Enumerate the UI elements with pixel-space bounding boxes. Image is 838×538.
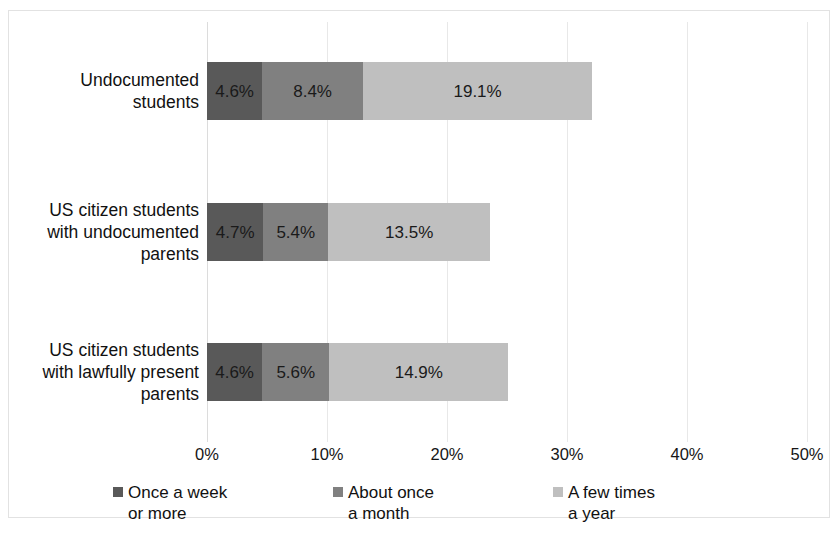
bar-segment[interactable]: 4.6% bbox=[207, 343, 262, 401]
bar-segment[interactable]: 4.7% bbox=[207, 203, 263, 261]
chart-legend: Once a weekor moreAbout oncea monthA few… bbox=[8, 482, 830, 528]
bar-value-label: 13.5% bbox=[385, 224, 433, 241]
bar-segment[interactable]: 5.4% bbox=[263, 203, 328, 261]
legend-swatch-icon bbox=[333, 487, 343, 497]
bar-segment[interactable]: 4.6% bbox=[207, 62, 262, 120]
x-tick-label-1: 10% bbox=[310, 445, 343, 464]
x-axis-tick-labels: 0%10%20%30%40%50% bbox=[207, 445, 807, 471]
legend-item[interactable]: About oncea month bbox=[333, 482, 505, 524]
x-tick-label-5: 50% bbox=[790, 445, 823, 464]
y-axis-category-labels: Undocumentedstudents US citizen students… bbox=[8, 22, 199, 442]
gridline-40 bbox=[687, 22, 688, 442]
plot-area: 4.6%8.4%19.1%4.7%5.4%13.5%4.6%5.6%14.9% bbox=[207, 22, 807, 442]
legend-swatch-icon bbox=[113, 487, 123, 497]
bar-segment[interactable]: 5.6% bbox=[262, 343, 329, 401]
bar-segment[interactable]: 13.5% bbox=[328, 203, 490, 261]
x-tick-label-3: 30% bbox=[550, 445, 583, 464]
bar-segment[interactable]: 19.1% bbox=[363, 62, 592, 120]
bar-value-label: 5.4% bbox=[276, 224, 315, 241]
bar-value-label: 5.6% bbox=[276, 364, 315, 381]
legend-item[interactable]: A few timesa year bbox=[553, 482, 725, 524]
bar-row[interactable]: 4.6%8.4%19.1% bbox=[207, 62, 592, 120]
bar-row[interactable]: 4.6%5.6%14.9% bbox=[207, 343, 508, 401]
x-tick-label-4: 40% bbox=[670, 445, 703, 464]
bar-value-label: 8.4% bbox=[293, 83, 332, 100]
bar-value-label: 4.6% bbox=[215, 364, 254, 381]
x-tick-label-0: 0% bbox=[195, 445, 219, 464]
y-axis-label-0: Undocumentedstudents bbox=[13, 69, 199, 113]
bar-segment[interactable]: 14.9% bbox=[329, 343, 508, 401]
legend-item[interactable]: Once a weekor more bbox=[113, 482, 285, 524]
x-tick-label-2: 20% bbox=[430, 445, 463, 464]
legend-swatch-icon bbox=[553, 487, 563, 497]
bar-value-label: 4.6% bbox=[215, 83, 254, 100]
bar-row[interactable]: 4.7%5.4%13.5% bbox=[207, 203, 490, 261]
y-axis-label-2: US citizen studentswith lawfully present… bbox=[13, 339, 199, 405]
legend-label: A few timesa year bbox=[568, 482, 655, 524]
bar-value-label: 4.7% bbox=[216, 224, 255, 241]
bar-value-label: 14.9% bbox=[395, 364, 443, 381]
gridline-50 bbox=[807, 22, 808, 442]
stacked-bar-chart: Undocumentedstudents US citizen students… bbox=[0, 0, 838, 538]
bar-value-label: 19.1% bbox=[453, 83, 501, 100]
y-axis-label-1: US citizen studentswith undocumentedpare… bbox=[13, 199, 199, 265]
legend-label: Once a weekor more bbox=[128, 482, 227, 524]
bar-segment[interactable]: 8.4% bbox=[262, 62, 363, 120]
legend-label: About oncea month bbox=[348, 482, 434, 524]
